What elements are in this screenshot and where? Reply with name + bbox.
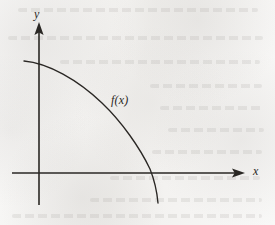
y-axis-group [34, 22, 43, 205]
x-axis-label: x [253, 165, 258, 177]
curve-function-label: f(x) [111, 94, 128, 106]
coordinate-plot [0, 0, 275, 225]
function-curve [24, 61, 158, 203]
x-axis-group [12, 168, 245, 177]
y-axis-label: y [34, 8, 39, 20]
figure-container: y x f(x) [0, 0, 275, 225]
